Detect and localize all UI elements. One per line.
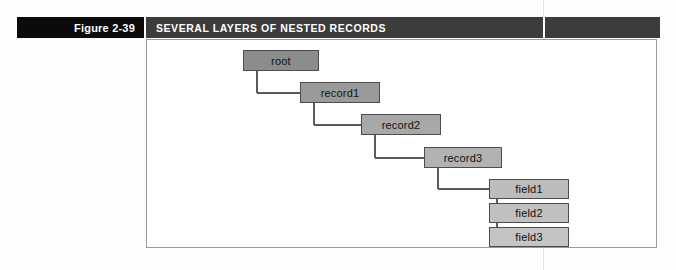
caption-strip-divider (543, 17, 545, 38)
node-field1: field1 (489, 179, 569, 199)
node-record3: record3 (424, 147, 502, 168)
node-field2: field2 (489, 203, 569, 223)
node-label: record3 (444, 152, 483, 164)
node-field3: field3 (489, 227, 569, 247)
node-label: root (271, 55, 291, 67)
figure-caption-bar: Figure 2-39 SEVERAL LAYERS OF NESTED REC… (17, 17, 660, 38)
node-record1: record1 (300, 82, 380, 103)
node-label: field2 (515, 207, 543, 219)
node-root: root (243, 50, 319, 71)
node-label: field3 (515, 231, 543, 243)
figure-number-label: Figure 2-39 (17, 17, 144, 38)
node-label: record2 (382, 119, 421, 131)
figure-caption-text: SEVERAL LAYERS OF NESTED RECORDS (146, 17, 660, 38)
node-label: record1 (321, 87, 360, 99)
diagram-frame (146, 39, 657, 248)
node-record2: record2 (361, 114, 441, 135)
node-label: field1 (515, 183, 543, 195)
